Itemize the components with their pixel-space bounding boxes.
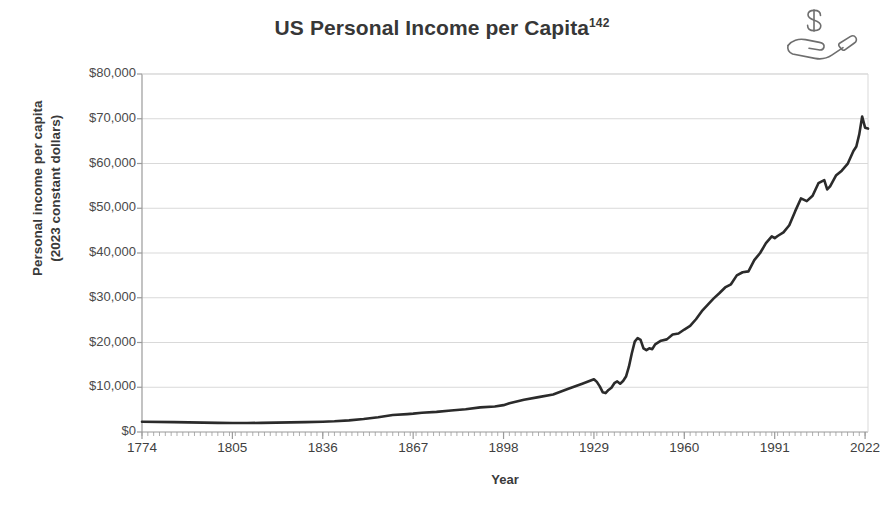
plot-area — [0, 0, 884, 507]
x-axis-tick-label: 2022 — [825, 440, 884, 455]
x-axis-tick-label: 1867 — [373, 440, 453, 455]
x-axis-tick-label: 1836 — [283, 440, 363, 455]
chart-figure: US Personal Income per Capita142 Persona… — [0, 0, 884, 507]
x-axis-tick-label: 1805 — [192, 440, 272, 455]
x-axis-tick-label: 1774 — [102, 440, 182, 455]
x-axis-tick-label: 1991 — [735, 440, 815, 455]
x-axis-tick-label: 1929 — [554, 440, 634, 455]
x-axis-tick-label: 1960 — [644, 440, 724, 455]
x-axis-tick-label: 1898 — [464, 440, 544, 455]
data-series-line — [142, 117, 868, 424]
